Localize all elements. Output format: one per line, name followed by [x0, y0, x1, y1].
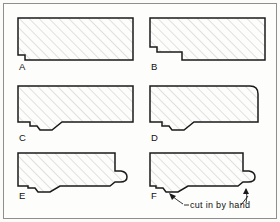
profile-outline-a — [18, 18, 133, 60]
stage-label-b: B — [151, 61, 158, 72]
stage-label-d: D — [151, 132, 158, 143]
stage-label-e: E — [19, 190, 26, 201]
stage-label-c: C — [19, 132, 26, 143]
moulding-profile-diagram: A B C D E F — [0, 0, 280, 222]
stage-label-a: A — [19, 61, 26, 72]
stage-label-f: F — [151, 190, 157, 201]
profile-outline-e — [18, 153, 127, 192]
annotation-label: cut in by hand — [190, 200, 250, 210]
figure-root: A B C D E F — [0, 0, 280, 222]
